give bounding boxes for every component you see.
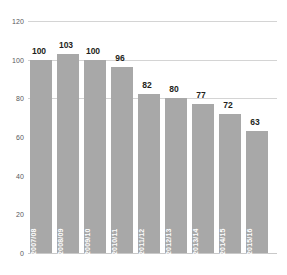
category-label-2011-12: 2011/12 bbox=[138, 229, 145, 255]
bar-2009-10 bbox=[84, 60, 106, 253]
value-label-2015-16: 63 bbox=[235, 118, 275, 127]
bar-2007-08 bbox=[30, 60, 52, 253]
value-label-2014-15: 72 bbox=[208, 101, 248, 110]
bar-2008-09 bbox=[57, 54, 79, 253]
bars-layer bbox=[28, 21, 277, 253]
category-label-2013-14: 2013/14 bbox=[192, 228, 199, 255]
category-label-2007-08: 2007/08 bbox=[30, 228, 37, 255]
y-tick-label-80: 80 bbox=[0, 95, 24, 102]
category-label-2015-16: 2015/16 bbox=[246, 228, 253, 255]
category-label-2009-10: 2009/10 bbox=[84, 228, 91, 255]
y-tick-label-20: 20 bbox=[0, 211, 24, 218]
y-tick-label-100: 100 bbox=[0, 57, 24, 64]
bar-2010-11 bbox=[111, 67, 133, 253]
category-label-2012-13: 2012/13 bbox=[165, 228, 172, 255]
value-label-2013-14: 77 bbox=[181, 91, 221, 100]
category-label-2008-09: 2008/09 bbox=[57, 228, 64, 255]
category-label-2010-11: 2010/11 bbox=[111, 229, 118, 255]
x-axis-baseline bbox=[28, 253, 277, 254]
category-label-2014-15: 2014/15 bbox=[219, 228, 226, 255]
y-tick-label-40: 40 bbox=[0, 173, 24, 180]
y-tick-label-0: 0 bbox=[0, 250, 24, 257]
value-label-2010-11: 96 bbox=[100, 54, 140, 63]
y-tick-label-60: 60 bbox=[0, 134, 24, 141]
bar-chart: 120 100 80 60 40 20 0 100 103 100 96 82 … bbox=[0, 0, 287, 275]
y-tick-label-120: 120 bbox=[0, 18, 24, 25]
